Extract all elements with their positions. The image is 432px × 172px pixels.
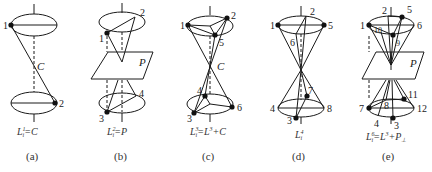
point-4 — [202, 93, 207, 98]
point-label-2: 2 — [382, 5, 387, 16]
point-label-9: 9 — [396, 39, 400, 48]
point-label-5: 5 — [328, 20, 333, 31]
point-5 — [212, 32, 217, 37]
panel-a: 1 2 C L1i=C (a) — [3, 4, 64, 163]
point-label-6: 6 — [290, 37, 295, 48]
point-label-4: 4 — [374, 118, 379, 129]
point-3 — [293, 115, 298, 120]
point-label-2: 2 — [231, 10, 236, 21]
point-label-12: 12 — [417, 103, 427, 114]
caption-c: (c) — [202, 150, 215, 163]
point-label-8: 8 — [327, 103, 332, 114]
cone-edge-7 — [301, 70, 307, 96]
point-label-2: 2 — [140, 7, 145, 18]
point-label-3: 3 — [99, 113, 104, 124]
plane-label: P — [409, 57, 417, 69]
point-3 — [191, 110, 196, 115]
point-label-3: 3 — [394, 120, 399, 131]
point-label-1: 1 — [270, 20, 275, 31]
point-label-4: 4 — [197, 85, 202, 96]
point-label-1: 1 — [180, 20, 185, 31]
point-1 — [8, 22, 13, 27]
point-1 — [275, 22, 280, 27]
panel-d: 1 2 3 4 5 6 7 8 L4i (d) — [270, 6, 333, 163]
point-label-2: 2 — [59, 98, 64, 109]
point-label-3: 3 — [187, 113, 192, 124]
point-label-3: 3 — [287, 115, 292, 126]
top-ellipse — [99, 12, 145, 32]
point-5 — [399, 14, 404, 19]
radius-6 — [210, 104, 232, 107]
point-label-6: 6 — [237, 102, 242, 113]
point-9 — [390, 32, 395, 37]
point-label-5: 5 — [407, 4, 412, 15]
chord-9-5 — [393, 17, 402, 35]
point-1 — [185, 22, 190, 27]
center-label: C — [37, 60, 45, 72]
point-11 — [401, 96, 406, 101]
point-3 — [104, 109, 109, 114]
panel-e: P 1 2 3 4 5 6 7 8 9 10 11 12 L6i=L3+P⊥ (… — [359, 4, 427, 163]
point-7 — [366, 105, 371, 110]
caption-d: (d) — [292, 150, 305, 163]
point-label-1: 1 — [360, 20, 365, 31]
caption-a: (a) — [26, 150, 39, 163]
point-6 — [229, 104, 234, 109]
panel-c: 1 2 3 4 5 6 C L3i=L3+C (c) — [180, 6, 242, 163]
point-2 — [52, 100, 57, 105]
formula-e: L6i=L3+P⊥ — [365, 131, 406, 143]
point-5 — [321, 22, 326, 27]
point-label-7: 7 — [308, 85, 313, 96]
formula-b: L2i=P — [106, 126, 127, 138]
point-label-6: 6 — [417, 20, 422, 31]
point-label-2: 2 — [310, 6, 315, 17]
point-label-7: 7 — [359, 103, 364, 114]
point-label-4: 4 — [139, 88, 144, 99]
point-2 — [224, 15, 229, 20]
point-label-4: 4 — [270, 103, 275, 114]
panel-b: P 1 2 3 4 L2i=P (b) — [91, 3, 153, 163]
formula-a: L1i=C — [16, 126, 38, 138]
center-label: C — [217, 60, 225, 72]
cone-edge-1 — [107, 33, 122, 62]
point-label-11: 11 — [408, 89, 418, 100]
inversion-line — [11, 25, 55, 103]
point-label-1: 1 — [99, 33, 104, 44]
plane-label: P — [138, 56, 146, 68]
symmetry-operations-diagram: 1 2 C L1i=C (a) P 1 2 3 4 L2i=P (b) — [0, 0, 432, 172]
caption-e: (e) — [382, 150, 395, 163]
point-label-5: 5 — [219, 37, 224, 48]
formula-d: L4i — [294, 129, 304, 141]
point-label-10: 10 — [374, 26, 382, 35]
point-label-8: 8 — [384, 100, 389, 111]
formula-c: L3i=L3+C — [189, 126, 226, 138]
point-label-1: 1 — [3, 20, 8, 31]
point-1 — [366, 22, 371, 27]
point-1 — [104, 30, 109, 35]
caption-b: (b) — [114, 150, 127, 163]
